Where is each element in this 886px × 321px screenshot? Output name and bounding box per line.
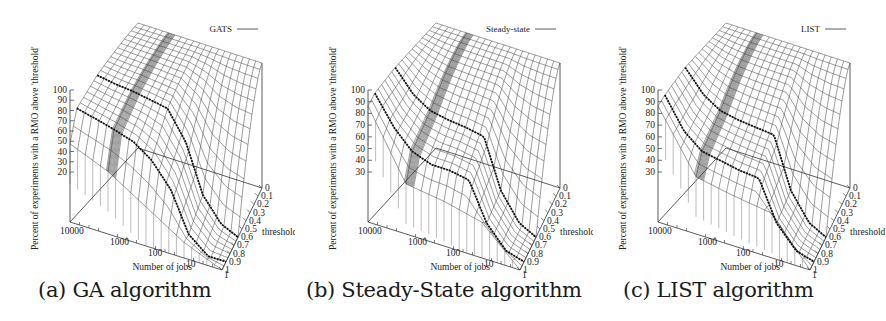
z-tick-label: 40	[646, 155, 656, 165]
z-tick-label: 50	[356, 144, 366, 154]
jobs-tick-label: 1000	[408, 237, 427, 247]
z-tick-label: 40	[58, 147, 68, 157]
jobs-tick-label: 10000	[648, 226, 672, 236]
z-tick-label: 50	[646, 144, 656, 154]
threshold-tick-label: 1	[523, 265, 528, 275]
z-tick-label: 60	[58, 126, 68, 136]
z-tick-label: 30	[58, 157, 68, 167]
z-axis-label: Percent of experiments with a RMO above …	[30, 46, 40, 250]
z-tick-label: 90	[58, 95, 68, 105]
z-tick-label: 80	[58, 106, 68, 116]
plot-body: 203040506070809010010000100010010100.10.…	[30, 23, 295, 280]
surface-plot-a: 203040506070809010010000100010010100.10.…	[0, 0, 295, 280]
threshold-tick-label: 1	[813, 265, 818, 275]
threshold-tick-label: 1	[225, 265, 230, 275]
surface-plot-c: 3040506070809010010000100010010100.10.20…	[588, 0, 886, 280]
jobs-axis-label: Number of jobs	[720, 262, 780, 272]
caption-c: (c) LIST algorithm	[623, 278, 814, 302]
z-tick-label: 90	[356, 97, 366, 107]
z-tick-label: 30	[356, 167, 366, 177]
z-tick-label: 100	[53, 85, 68, 95]
jobs-tick-label: 100	[446, 248, 461, 258]
z-tick-label: 100	[351, 85, 366, 95]
jobs-tick-label: 1000	[110, 237, 129, 247]
legend-label: Steady-state	[486, 24, 530, 34]
z-tick-label: 80	[356, 108, 366, 118]
plot-body: 3040506070809010010000100010010100.10.20…	[618, 23, 886, 280]
threshold-axis-label: threshold	[850, 227, 886, 237]
jobs-tick-label: 1000	[698, 237, 717, 247]
z-tick-label: 20	[58, 167, 68, 177]
jobs-tick-label: 100	[736, 248, 751, 258]
z-tick-label: 90	[646, 97, 656, 107]
panel-a: 203040506070809010010000100010010100.10.…	[0, 0, 295, 321]
z-tick-label: 40	[356, 155, 366, 165]
z-tick-label: 60	[646, 132, 656, 142]
jobs-tick-label: 10000	[60, 226, 84, 236]
legend-label: GATS	[209, 24, 232, 34]
panel-c: 3040506070809010010000100010010100.10.20…	[588, 0, 883, 321]
plot-body: 3040506070809010010000100010010100.10.20…	[328, 23, 593, 280]
jobs-axis-label: Number of jobs	[132, 262, 192, 272]
jobs-tick-label: 10000	[358, 226, 382, 236]
threshold-tick-label: 0.9	[817, 257, 829, 267]
z-tick-label: 80	[646, 108, 656, 118]
threshold-tick-label: 0.9	[229, 257, 241, 267]
z-tick-label: 30	[646, 167, 656, 177]
z-tick-label: 60	[356, 132, 366, 142]
highlighted-curve	[665, 95, 814, 262]
threshold-tick-label: 0.9	[527, 257, 539, 267]
caption-b: (b) Steady-State algorithm	[306, 278, 582, 302]
caption-a: (a) GA algorithm	[38, 278, 211, 302]
z-tick-label: 70	[356, 120, 366, 130]
jobs-axis-label: Number of jobs	[430, 262, 490, 272]
z-tick-label: 70	[646, 120, 656, 130]
threshold-axis-label: threshold	[262, 227, 295, 237]
surface-plot-b: 3040506070809010010000100010010100.10.20…	[298, 0, 593, 280]
z-axis-label: Percent of experiments with a RMO above …	[328, 46, 338, 250]
z-axis-label: Percent of experiments with a RMO above …	[618, 46, 628, 250]
z-tick-label: 50	[58, 136, 68, 146]
panel-b: 3040506070809010010000100010010100.10.20…	[298, 0, 593, 321]
jobs-tick-label: 100	[148, 248, 163, 258]
legend-label: LIST	[801, 24, 821, 34]
surface-mesh	[368, 23, 560, 270]
z-tick-label: 100	[641, 85, 656, 95]
z-tick-label: 70	[58, 116, 68, 126]
